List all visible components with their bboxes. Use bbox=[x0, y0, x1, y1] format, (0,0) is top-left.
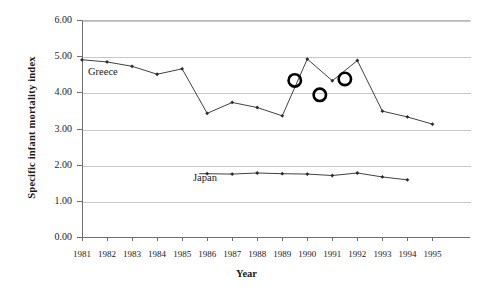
data-point-marker bbox=[406, 178, 410, 182]
x-axis-title: Year bbox=[0, 268, 493, 279]
data-point-marker bbox=[230, 101, 234, 105]
circle-annotation-2-icon bbox=[314, 89, 326, 101]
data-point-marker bbox=[255, 171, 259, 175]
series-line bbox=[82, 59, 432, 124]
data-point-marker bbox=[380, 175, 384, 179]
data-point-marker bbox=[280, 172, 284, 176]
data-point-marker bbox=[431, 122, 435, 126]
data-point-marker bbox=[130, 64, 134, 68]
data-point-marker bbox=[80, 58, 84, 62]
series-label-japan: Japan bbox=[193, 172, 217, 183]
data-point-marker bbox=[305, 172, 309, 176]
data-point-marker bbox=[180, 67, 184, 71]
data-point-marker bbox=[155, 72, 159, 76]
data-point-marker bbox=[205, 111, 209, 115]
circle-annotation-1-icon bbox=[289, 74, 301, 86]
series-label-greece: Greece bbox=[88, 66, 118, 77]
data-point-marker bbox=[280, 114, 284, 118]
circle-annotation-3-icon bbox=[339, 73, 351, 85]
chart-container: Specific infant mortality index 0.001.00… bbox=[0, 0, 493, 290]
data-point-marker bbox=[230, 172, 234, 176]
data-point-marker bbox=[105, 60, 109, 64]
data-point-marker bbox=[380, 109, 384, 113]
data-series-layer bbox=[0, 0, 493, 290]
data-point-marker bbox=[255, 106, 259, 110]
series-japan bbox=[205, 171, 409, 182]
data-point-marker bbox=[406, 115, 410, 119]
series-greece bbox=[80, 57, 434, 126]
data-point-marker bbox=[330, 174, 334, 178]
data-point-marker bbox=[355, 171, 359, 175]
